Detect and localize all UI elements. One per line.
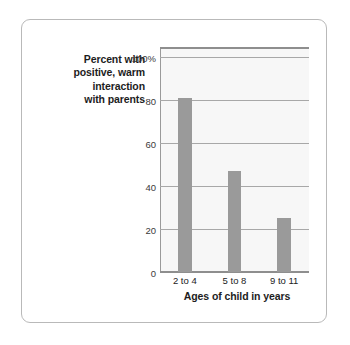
gridline (160, 57, 309, 58)
y-axis-tick-label: 40 (108, 181, 156, 192)
plot-inner (160, 49, 309, 273)
bar (277, 218, 291, 272)
plot-area (160, 47, 309, 273)
y-axis-tick-label: 0 (108, 268, 156, 279)
y-axis-tick-label: 60 (108, 138, 156, 149)
x-axis-title: Ages of child in years (142, 290, 332, 302)
x-axis-tick-labels: 2 to 45 to 89 to 11 (160, 275, 309, 289)
x-axis-tick-label: 5 to 8 (223, 275, 247, 286)
y-axis-tick-label: 20 (108, 224, 156, 235)
bar (228, 171, 242, 272)
chart-frame: Percent with positive, warm interaction … (21, 19, 327, 323)
bar (178, 98, 192, 272)
y-axis-tick-labels: 100%806040200 (106, 47, 156, 273)
x-axis-tick-label: 9 to 11 (270, 275, 298, 286)
y-axis-tick-label: 80 (108, 95, 156, 106)
x-axis-tick-label: 2 to 4 (173, 275, 197, 286)
y-axis-tick-label: 100% (108, 52, 156, 63)
y-axis-line (160, 49, 161, 273)
